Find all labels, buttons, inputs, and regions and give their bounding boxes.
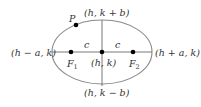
label-focus-2: F2 <box>128 58 140 71</box>
focus-2-point <box>131 50 136 55</box>
label-focus-2-sub: 2 <box>136 63 140 71</box>
focus-1-point <box>69 50 74 55</box>
label-bottom-vertex: (h, k − b) <box>84 87 130 98</box>
label-focus-1-sub: 1 <box>74 63 78 71</box>
label-c-left: c <box>84 39 90 50</box>
label-right-vertex: (h + a, k) <box>155 47 200 58</box>
ellipse-diagram: P (h, k + b) (h, k − b) (h − a, k) (h + … <box>0 0 201 107</box>
label-center: (h, k) <box>91 57 117 68</box>
center-point <box>100 50 105 55</box>
label-focus-1: F1 <box>66 58 78 71</box>
label-point-p: P <box>68 13 76 24</box>
label-left-vertex: (h − a, k) <box>11 47 56 58</box>
label-c-right: c <box>115 39 121 50</box>
label-top-vertex: (h, k + b) <box>84 7 130 18</box>
